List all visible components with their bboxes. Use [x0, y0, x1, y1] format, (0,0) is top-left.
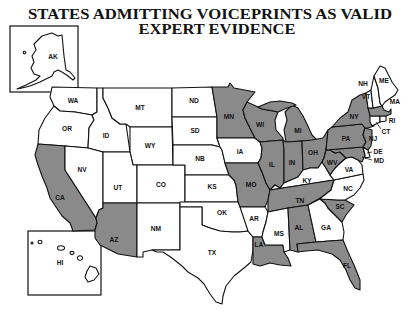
state-label-il: IL	[269, 161, 275, 168]
map-title-line-2: EXPERT EVIDENCE	[139, 21, 296, 37]
state-label-mt: MT	[135, 104, 145, 111]
state-hi	[31, 240, 99, 282]
state-label-ny: NY	[349, 113, 359, 120]
state-ri	[380, 116, 386, 122]
state-label-ky: KY	[302, 177, 312, 184]
state-label-or: OR	[62, 125, 72, 132]
state-label-nj: NJ	[369, 135, 378, 142]
map-title-line-1: STATES ADMITTING VOICEPRINTS AS VALID	[28, 6, 392, 22]
state-mi	[284, 105, 317, 142]
state-label-ak: AK	[48, 53, 58, 60]
state-ak	[17, 33, 75, 89]
state-label-nm: NM	[151, 225, 162, 232]
state-label-mn: MN	[224, 113, 234, 120]
state-label-id: ID	[103, 132, 110, 139]
state-label-ut: UT	[114, 184, 123, 191]
state-label-sd: SD	[190, 127, 199, 134]
state-label-ks: KS	[207, 183, 217, 190]
state-label-ga: GA	[321, 224, 331, 231]
state-label-mi: MI	[294, 127, 301, 134]
state-label-nd: ND	[189, 97, 199, 104]
state-label-sc: SC	[335, 203, 344, 210]
state-label-tn: TN	[296, 197, 305, 204]
state-label-me: ME	[379, 77, 389, 84]
state-label-de: DE	[373, 148, 383, 155]
state-label-wi: WI	[256, 121, 264, 128]
state-label-la: LA	[255, 241, 264, 248]
state-label-mo: MO	[246, 181, 257, 188]
voiceprint-states-map: STATES ADMITTING VOICEPRINTS AS VALID EX…	[0, 0, 407, 311]
state-label-al: AL	[295, 224, 304, 231]
state-label-wa: WA	[68, 97, 79, 104]
state-label-nv: NV	[77, 166, 87, 173]
state-label-ms: MS	[274, 230, 284, 237]
states-layer	[17, 33, 398, 304]
state-label-ri: RI	[389, 117, 396, 124]
state-label-wy: WY	[145, 142, 156, 149]
state-label-co: CO	[156, 181, 166, 188]
state-label-fl: FL	[343, 262, 351, 269]
state-label-ct: CT	[382, 128, 391, 135]
state-label-va: VA	[345, 166, 354, 173]
state-label-tx: TX	[208, 249, 217, 256]
state-ct	[370, 116, 380, 126]
state-label-ia: IA	[237, 148, 244, 155]
state-label-ma: MA	[390, 98, 400, 105]
state-label-wv: WV	[327, 159, 338, 166]
state-label-md: MD	[374, 157, 384, 164]
state-label-vt: VT	[362, 93, 370, 100]
state-ut	[103, 152, 137, 203]
state-label-hi: HI	[57, 259, 64, 266]
state-label-oh: OH	[308, 149, 318, 156]
state-label-ok: OK	[217, 209, 227, 216]
state-label-in: IN	[289, 159, 296, 166]
state-label-az: AZ	[110, 236, 119, 243]
state-label-ar: AR	[249, 215, 259, 222]
state-label-ca: CA	[55, 194, 65, 201]
state-label-pa: PA	[342, 135, 351, 142]
state-label-nb: NB	[195, 155, 205, 162]
state-label-nc: NC	[343, 185, 353, 192]
state-label-nh: NH	[358, 80, 368, 87]
